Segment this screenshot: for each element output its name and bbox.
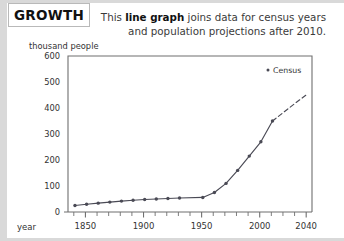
data-point (224, 182, 227, 185)
y-tick-label: 300 (44, 129, 60, 139)
axis-frame (68, 56, 312, 212)
legend-label: Census (273, 66, 301, 75)
data-point (155, 197, 158, 200)
data-point (201, 196, 204, 199)
data-point (120, 199, 123, 202)
y-tick-label: 600 (44, 51, 60, 61)
x-tick-group: 18501900195020002040 (68, 212, 317, 231)
y-tick-label: 500 (44, 77, 60, 87)
y-tick-group: 0100200300400500600 (44, 51, 68, 217)
data-point (236, 169, 239, 172)
plot-area: 0100200300400500600 18501900195020002040… (0, 0, 344, 241)
x-tick-label: 1950 (191, 221, 213, 231)
y-tick-label: 0 (55, 207, 60, 217)
data-point (97, 201, 100, 204)
y-tick-label: 200 (44, 155, 60, 165)
x-tick-label: 1900 (133, 221, 155, 231)
x-tick-label: 2040 (295, 221, 317, 231)
data-series-group (73, 95, 306, 207)
data-point (213, 191, 216, 194)
screenshot-root: GROWTH This line graph joins data for ce… (0, 0, 344, 241)
data-point (143, 198, 146, 201)
data-point (259, 140, 262, 143)
data-line-census (75, 121, 273, 206)
x-tick-label: 1850 (75, 221, 97, 231)
y-tick-label: 400 (44, 103, 60, 113)
data-point (85, 203, 88, 206)
x-tick-label: 2000 (249, 221, 271, 231)
data-point (248, 154, 251, 157)
data-point (108, 200, 111, 203)
data-point (131, 199, 134, 202)
data-point (166, 197, 169, 200)
line-chart-svg: 0100200300400500600 18501900195020002040… (0, 0, 344, 241)
data-line-projection (273, 95, 307, 121)
data-point (73, 204, 76, 207)
y-tick-label: 100 (44, 181, 60, 191)
legend-census-dot (267, 69, 270, 72)
legend-group: Census (267, 66, 302, 75)
data-point (178, 196, 181, 199)
